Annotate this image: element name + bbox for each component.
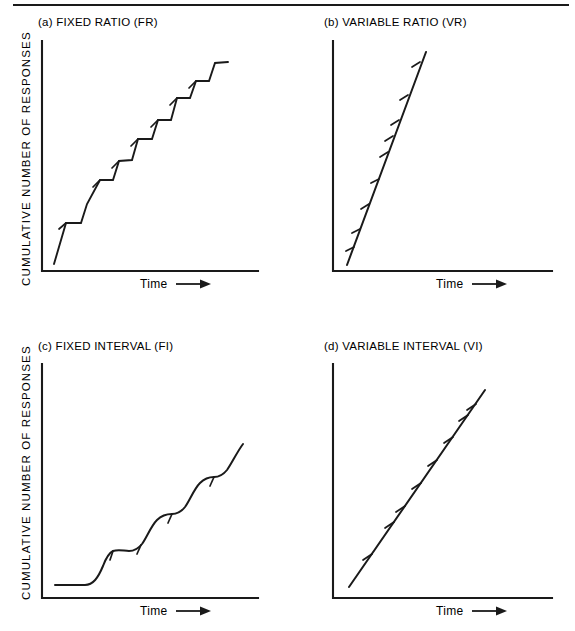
panel-fixed-ratio: (a) FIXED RATIO (FR) Time	[0, 0, 290, 310]
x-axis-label-text-vr: Time	[436, 277, 463, 291]
panel-fixed-interval: (c) FIXED INTERVAL (FI) Time	[0, 320, 290, 631]
plot-variable-ratio	[290, 0, 575, 300]
reinforcement-ticks-fi	[110, 477, 214, 560]
x-axis-label-fr: Time	[140, 277, 212, 291]
x-axis-label-text-vi: Time	[436, 604, 463, 618]
x-axis-label-text-fi: Time	[140, 604, 167, 618]
right-arrow-icon	[472, 278, 508, 290]
x-axis-label-fi: Time	[140, 604, 212, 618]
x-axis-label-text-fr: Time	[140, 277, 167, 291]
figure-root: CUMULATIVE NUMBER OF RESPONSES CUMULATIV…	[0, 0, 575, 631]
axis-lines-vr	[333, 41, 552, 271]
plot-fixed-interval	[0, 320, 290, 620]
right-arrow-icon	[472, 605, 508, 617]
axis-lines-fr	[42, 41, 258, 271]
curve-fi	[55, 444, 243, 585]
x-axis-label-vr: Time	[436, 277, 508, 291]
reinforcement-ticks-vr	[346, 62, 420, 251]
x-axis-label-vi: Time	[436, 604, 508, 618]
plot-variable-interval	[290, 320, 575, 620]
axis-lines-fi	[42, 364, 258, 598]
right-arrow-icon	[176, 278, 212, 290]
panel-variable-interval: (d) VARIABLE INTERVAL (VI) Time	[290, 320, 575, 631]
panel-variable-ratio: (b) VARIABLE RATIO (VR) Time	[290, 0, 575, 310]
curve-vi	[349, 390, 485, 587]
curve-vr	[347, 52, 426, 265]
curve-fr	[54, 62, 228, 264]
right-arrow-icon	[176, 605, 212, 617]
plot-fixed-ratio	[0, 0, 290, 300]
